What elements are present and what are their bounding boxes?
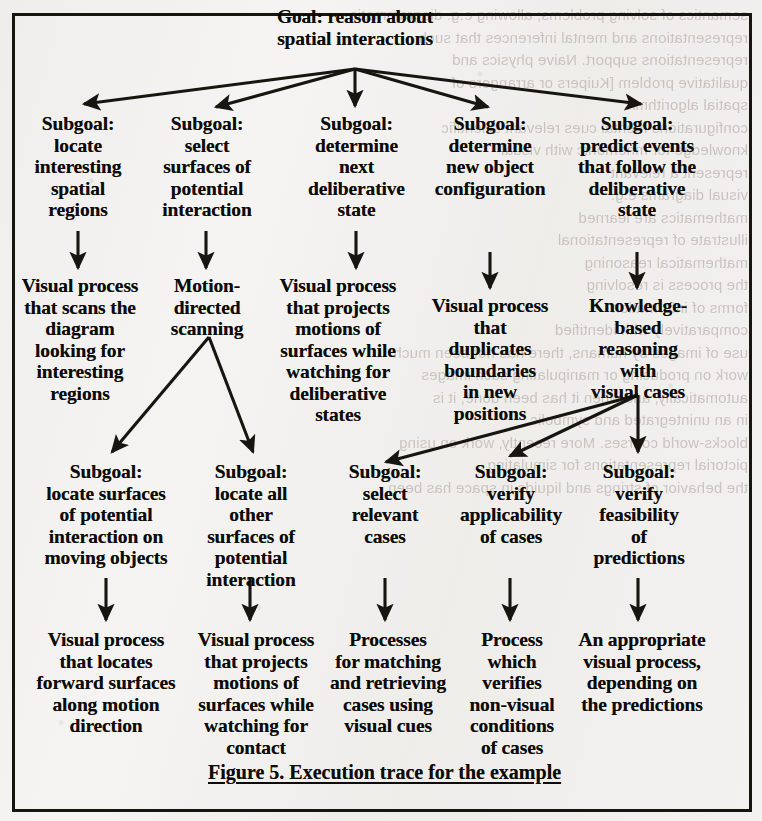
node-process-project-deliberative[interactable]: Visual process that projects motions of …	[268, 275, 408, 426]
node-subgoal-locate-surfaces-moving[interactable]: Subgoal: locate surfaces of potential in…	[22, 461, 190, 569]
node-process-duplicate-boundaries[interactable]: Visual process that duplicates boundarie…	[419, 295, 561, 424]
node-goal[interactable]: Goal: reason about spatial interactions	[225, 6, 485, 49]
node-subgoal-next-deliberative[interactable]: Subgoal: determine next deliberative sta…	[290, 113, 423, 221]
node-subgoal-select-surfaces[interactable]: Subgoal: select surfaces of potential in…	[144, 113, 270, 221]
node-process-scan-diagram[interactable]: Visual process that scans the diagram lo…	[10, 275, 150, 404]
node-subgoal-verify-feasibility[interactable]: Subgoal: verify feasibility of predictio…	[577, 461, 701, 569]
node-process-motion-directed-scanning[interactable]: Motion- directed scanning	[152, 275, 262, 340]
node-process-knowledge-based-reasoning[interactable]: Knowledge- based reasoning with visual c…	[563, 295, 713, 403]
figure-page: semantics of solving problems; allowing …	[0, 0, 762, 821]
node-subgoal-new-object-config[interactable]: Subgoal: determine new object configurat…	[423, 113, 557, 199]
figure-caption: Figure 5. Execution trace for the exampl…	[208, 760, 561, 784]
node-process-project-contact[interactable]: Visual process that projects motions of …	[186, 629, 326, 758]
node-process-forward-surfaces[interactable]: Visual process that locates forward surf…	[20, 629, 192, 737]
node-subgoal-locate-regions[interactable]: Subgoal: locate interesting spatial regi…	[18, 113, 138, 221]
node-subgoal-select-relevant-cases[interactable]: Subgoal: select relevant cases	[325, 461, 445, 547]
node-process-verify-nonvisual[interactable]: Process which verifies non-visual condit…	[452, 629, 572, 758]
node-subgoal-locate-all-other[interactable]: Subgoal: locate all other surfaces of po…	[192, 461, 310, 590]
node-process-match-retrieve-cases[interactable]: Processes for matching and retrieving ca…	[320, 629, 456, 737]
node-subgoal-verify-applicability[interactable]: Subgoal: verify applicability of cases	[445, 461, 577, 547]
node-process-appropriate-visual[interactable]: An appropriate visual process, depending…	[562, 629, 722, 715]
node-subgoal-predict-events[interactable]: Subgoal: predict events that follow the …	[552, 113, 722, 221]
